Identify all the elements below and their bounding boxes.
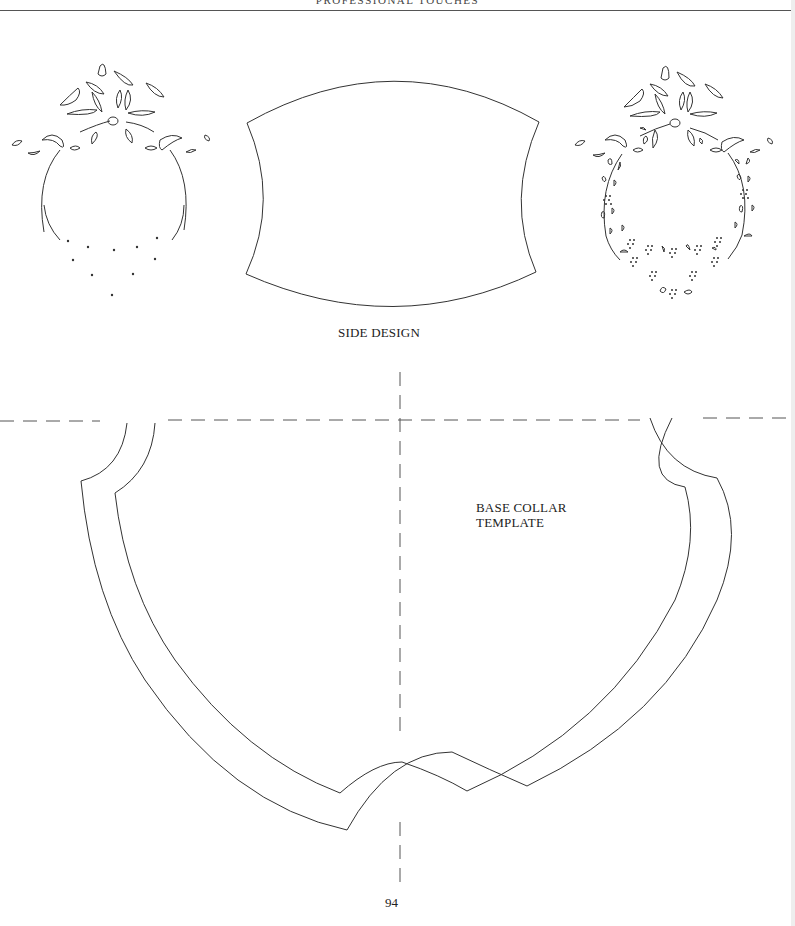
side-design-label: SIDE DESIGN [338, 325, 420, 340]
left-floral-motif [12, 64, 210, 240]
template-illustration [0, 0, 795, 926]
left-motif-dots [67, 237, 158, 296]
page-edge-shadow [791, 0, 795, 926]
base-collar-outline [81, 418, 732, 830]
right-motif-dot-clusters [603, 189, 749, 299]
base-collar-template-label: BASE COLLAR TEMPLATE [476, 500, 596, 530]
right-floral-motif [575, 66, 773, 294]
side-design-outline [246, 81, 539, 306]
fold-guides [0, 372, 795, 885]
page-number: 94 [385, 895, 398, 911]
